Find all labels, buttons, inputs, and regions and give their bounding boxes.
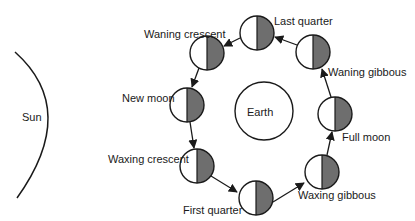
label-waxing-crescent: Waxing crescent [108,153,189,165]
label-full-moon: Full moon [342,131,390,143]
moon-new-moon [170,88,204,122]
moon-last-quarter [240,16,274,50]
moon-waning-crescent [190,36,224,70]
label-waxing-gibbous: Waxing gibbous [298,189,376,201]
arrow-waning-crescent-to-new [192,68,199,87]
arrow-waxing-gibbous-to-full [327,132,332,155]
label-waning-crescent: Waning crescent [144,28,226,40]
sun-label: Sun [22,111,42,123]
earth-label: Earth [247,106,273,118]
label-first-quarter: First quarter [183,204,242,216]
moon-first-quarter [239,181,273,215]
moon-waning-gibbous [296,35,330,69]
arrow-waning-gibbous-to-last [275,37,297,45]
arrow-waxing-crescent-to-first [211,176,237,192]
label-last-quarter: Last quarter [274,15,333,27]
arrow-last-to-waning-crescent [224,38,240,46]
label-new-moon: New moon [122,92,175,104]
label-waning-gibbous: Waning gibbous [328,66,406,78]
arrow-new-to-waxing-crescent [190,122,194,148]
moon-full-moon [318,97,352,131]
moon-waxing-gibbous [305,155,339,189]
sun-arc [15,52,48,198]
